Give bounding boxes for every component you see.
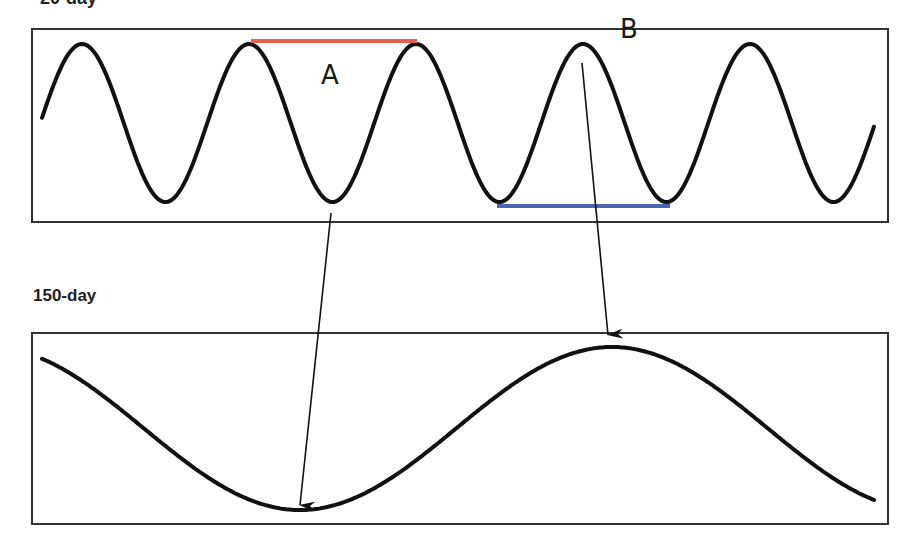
long-cycle-wave (42, 347, 874, 510)
short-cycle-wave (42, 44, 874, 202)
bottom-panel-frame (32, 333, 888, 524)
marker-b-label: B (620, 14, 638, 44)
arrow-peak-to-peak (582, 63, 608, 335)
arrow-trough-to-trough (300, 213, 331, 505)
marker-a-label: A (321, 60, 339, 90)
cycle-diagram (0, 0, 912, 547)
